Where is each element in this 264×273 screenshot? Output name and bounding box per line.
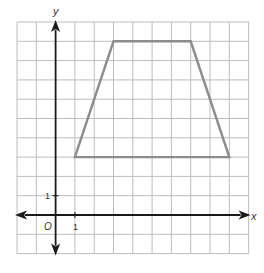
y-axis-label: y — [53, 6, 59, 17]
origin-label: O — [44, 222, 52, 232]
grid-lines — [17, 22, 249, 254]
x-tick-label-1: 1 — [73, 223, 78, 232]
coordinate-plane — [0, 0, 264, 273]
x-axis-label: x — [251, 211, 257, 222]
y-tick-label-1: 1 — [45, 192, 50, 201]
